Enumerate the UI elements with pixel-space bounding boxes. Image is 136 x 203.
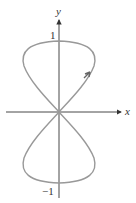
y-axis-label: y bbox=[56, 6, 61, 17]
chart-canvas bbox=[0, 0, 136, 203]
x-axis-label: x bbox=[125, 106, 130, 117]
y-tick-neg1: −1 bbox=[42, 186, 54, 197]
y-tick-1: 1 bbox=[50, 30, 56, 41]
